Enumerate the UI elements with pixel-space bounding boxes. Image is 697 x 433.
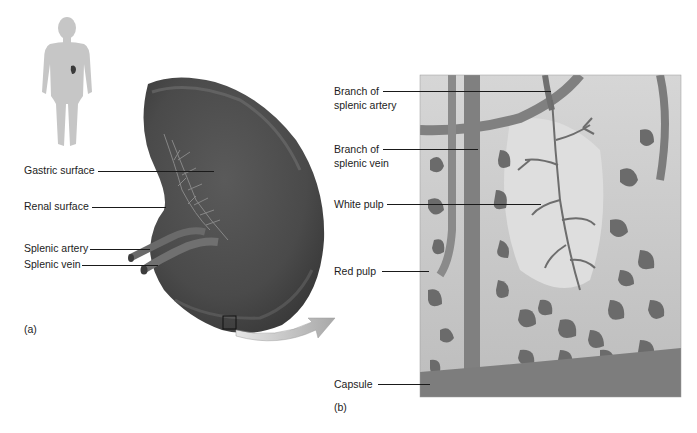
label-white-pulp: White pulp: [334, 197, 384, 211]
label-branch-splenic-vein-line1: Branch of: [334, 142, 379, 156]
leader-red-pulp: [382, 271, 429, 272]
label-gastric-surface: Gastric surface: [24, 163, 95, 177]
spleen-gross: [128, 77, 324, 333]
panel-letter-a: (a): [24, 323, 37, 335]
label-renal-surface: Renal surface: [24, 199, 89, 213]
leader-renal-surface: [92, 207, 166, 208]
leader-capsule: [378, 384, 430, 385]
label-splenic-vein: Splenic vein: [24, 257, 81, 271]
leader-splenic-vein: [82, 265, 158, 266]
leader-white-pulp: [387, 204, 541, 205]
human-silhouette-icon: [42, 17, 92, 146]
leader-splenic-artery: [90, 249, 150, 250]
label-branch-splenic-vein-line2: splenic vein: [334, 156, 389, 170]
label-branch-splenic-artery-line1: Branch of: [334, 84, 379, 98]
leader-gastric-surface: [98, 171, 214, 172]
leader-branch-splenic-artery: [383, 91, 551, 92]
body-locator-figure: [0, 0, 697, 433]
tissue-section-panel: [420, 75, 681, 397]
leader-branch-splenic-vein: [383, 149, 478, 150]
label-splenic-artery: Splenic artery: [24, 241, 88, 255]
label-branch-splenic-artery-line2: splenic artery: [334, 98, 396, 112]
panel-letter-b: (b): [334, 401, 347, 413]
label-capsule: Capsule: [334, 377, 373, 391]
label-red-pulp: Red pulp: [334, 264, 376, 278]
